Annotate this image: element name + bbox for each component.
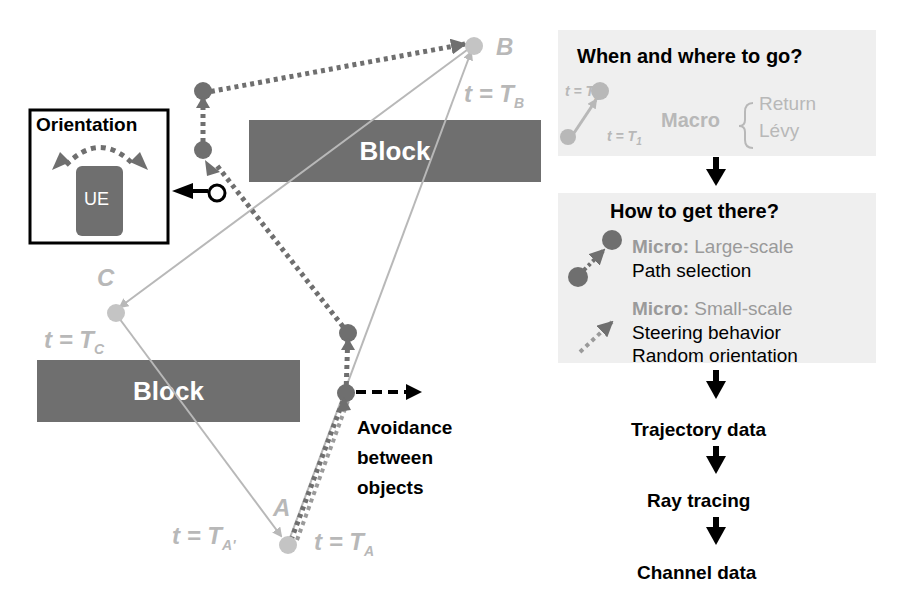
micro-path-secondary xyxy=(297,395,350,540)
magnifier-icon xyxy=(209,185,225,201)
orientation-title: Orientation xyxy=(36,114,137,136)
micro-panel-title: How to get there? xyxy=(610,200,779,223)
agent-markers xyxy=(194,82,357,412)
macro-t1: t = T1 xyxy=(607,128,642,147)
brace xyxy=(739,103,753,148)
micro-small-heading: Micro: Small-scale xyxy=(632,298,792,320)
micro-large-heading: Micro: Large-scale xyxy=(632,236,794,258)
step-channel-data: Channel data xyxy=(637,562,756,584)
micro-small-desc-1: Steering behavior xyxy=(632,322,781,344)
macro-panel-title: When and where to go? xyxy=(577,45,803,68)
point-b-node xyxy=(465,37,483,55)
step-ray-tracing: Ray tracing xyxy=(647,490,750,512)
ue-label: UE xyxy=(84,189,109,210)
step-trajectory-data: Trajectory data xyxy=(631,419,766,441)
micro-large-desc: Path selection xyxy=(632,260,751,282)
point-b-time: t = TB xyxy=(464,80,524,111)
point-b-label: B xyxy=(496,33,513,61)
point-a-label: A xyxy=(273,494,290,522)
point-c-time: t = TC xyxy=(44,326,104,357)
avoidance-label: Avoidance between objects xyxy=(357,413,452,503)
macro-t2: t = T2 xyxy=(565,83,600,102)
arrow-left-icon xyxy=(172,183,193,199)
macro-option-levy: Lévy xyxy=(759,120,799,142)
point-c-label: C xyxy=(97,264,114,292)
point-c-node xyxy=(107,304,125,322)
point-a-node xyxy=(279,536,297,554)
micro-small-desc-2: Random orientation xyxy=(632,345,798,367)
macro-label: Macro xyxy=(661,109,720,132)
macro-option-return: Return xyxy=(759,93,816,115)
point-a-prime-time: t = TA' xyxy=(172,522,235,553)
point-a-time: t = TA xyxy=(314,528,374,559)
